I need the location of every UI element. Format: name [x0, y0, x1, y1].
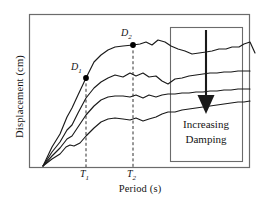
- y-axis-label: Displacement (cm): [14, 37, 25, 157]
- x-tick-label-t2: T2: [127, 168, 136, 182]
- increasing-damping-arrow-head: [198, 95, 215, 114]
- annotation-damping: Damping: [156, 133, 256, 145]
- point-label-d2: D2: [121, 27, 132, 41]
- tick-t1-subscript: 1: [86, 174, 90, 182]
- response-spectrum-figure: Displacement (cm) Period (s) T1 T2 D1 D2…: [0, 0, 265, 203]
- annotation-increasing: Increasing: [156, 118, 256, 130]
- point-label-d1: D1: [71, 61, 82, 75]
- marker-d2: [130, 42, 136, 48]
- x-axis-label: Period (s): [80, 183, 200, 194]
- label-d1-subscript: 1: [78, 67, 82, 75]
- x-tick-label-t1: T1: [80, 168, 89, 182]
- curve-damping-1: [43, 40, 255, 166]
- label-d2-subscript: 2: [128, 33, 132, 41]
- marker-d1: [83, 75, 89, 81]
- tick-t2-subscript: 2: [133, 174, 137, 182]
